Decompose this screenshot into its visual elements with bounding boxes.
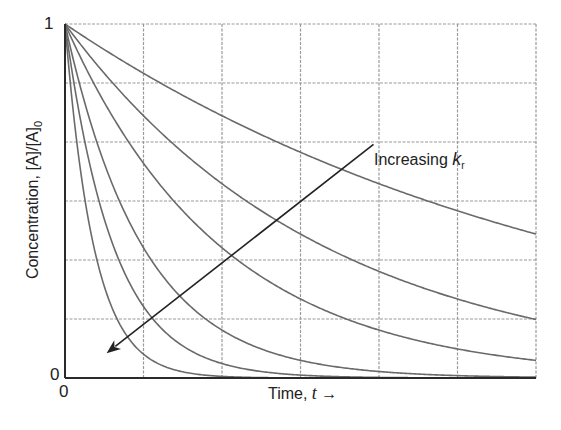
increasing-k-annotation: Increasing kr xyxy=(374,149,465,171)
chart-plot-area xyxy=(0,0,561,430)
x-tick-0: 0 xyxy=(59,382,68,402)
y-axis-label: Concentration, [A]/[A]0 xyxy=(24,121,44,279)
arrow-shaft xyxy=(115,144,373,346)
x-axis-label: Time, t → xyxy=(268,383,337,404)
x-axis-arrow-icon: → xyxy=(321,385,337,402)
arrowhead-icon xyxy=(107,340,121,353)
y-tick-1: 1 xyxy=(44,14,53,34)
increasing-k-arrow xyxy=(107,144,374,353)
